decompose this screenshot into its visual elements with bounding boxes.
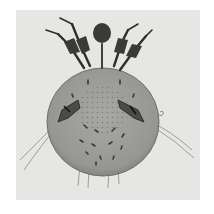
mite-illustration <box>0 0 214 214</box>
gnathosoma <box>93 23 111 43</box>
